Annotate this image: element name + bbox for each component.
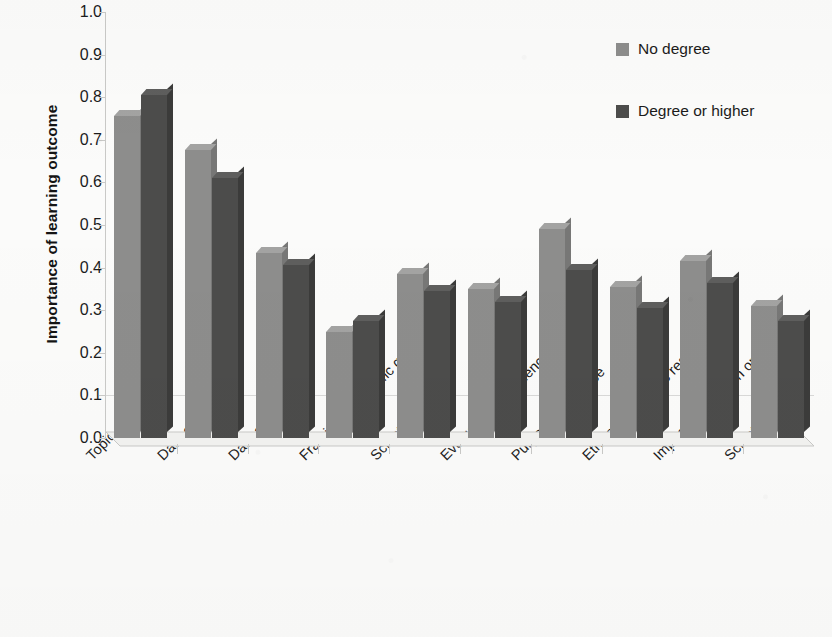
y-axis-tick-mark bbox=[99, 55, 106, 56]
y-axis-tick-mark bbox=[99, 310, 106, 311]
bar-group bbox=[539, 12, 592, 438]
y-axis-tick-mark bbox=[99, 97, 106, 98]
bar bbox=[424, 291, 450, 438]
bar-side-face bbox=[733, 271, 739, 432]
bar bbox=[680, 261, 706, 438]
bar bbox=[283, 265, 309, 438]
bar bbox=[610, 287, 636, 438]
bar bbox=[468, 289, 494, 438]
bar-front-face bbox=[353, 321, 379, 438]
bar-top-face bbox=[707, 277, 738, 283]
bar-side-face bbox=[309, 254, 315, 432]
bar-front-face bbox=[680, 261, 706, 438]
x-axis-separator bbox=[389, 444, 390, 454]
bar bbox=[141, 95, 167, 438]
bar-group bbox=[114, 12, 167, 438]
bar-front-face bbox=[468, 289, 494, 438]
bar-group bbox=[256, 12, 309, 438]
bar-front-face bbox=[141, 95, 167, 438]
bar-front-face bbox=[566, 270, 592, 438]
bar-side-face bbox=[521, 290, 527, 432]
bar-front-face bbox=[114, 116, 140, 438]
bar-front-face bbox=[212, 178, 238, 438]
y-axis-tick-mark bbox=[99, 12, 106, 13]
bar-front-face bbox=[751, 306, 777, 438]
bar-top-face bbox=[468, 283, 499, 289]
y-axis-tick-mark bbox=[99, 395, 106, 396]
bar-front-face bbox=[707, 283, 733, 438]
x-axis-separator bbox=[248, 444, 249, 454]
y-axis-tick-labels: 1.00.90.80.70.60.50.40.30.20.10.0 bbox=[56, 0, 102, 460]
bar-side-face bbox=[450, 280, 456, 432]
bar-top-face bbox=[212, 172, 243, 178]
bar-front-face bbox=[397, 274, 423, 438]
bar-front-face bbox=[610, 287, 636, 438]
bar bbox=[707, 283, 733, 438]
bar bbox=[326, 332, 352, 439]
bar-top-face bbox=[778, 315, 809, 321]
legend-item-no-degree: No degree bbox=[616, 40, 754, 58]
bar bbox=[539, 229, 565, 438]
x-axis-separator bbox=[177, 444, 178, 454]
bar-front-face bbox=[778, 321, 804, 438]
x-axis-separator bbox=[743, 444, 744, 454]
y-axis-tick-mark bbox=[99, 353, 106, 354]
bar-front-face bbox=[283, 265, 309, 438]
bar-side-face bbox=[804, 309, 810, 432]
bar-front-face bbox=[326, 332, 352, 439]
bar-side-face bbox=[592, 258, 598, 432]
bar-group bbox=[185, 12, 238, 438]
bar-front-face bbox=[495, 302, 521, 438]
y-axis-tick-mark bbox=[99, 225, 106, 226]
bar-side-face bbox=[663, 297, 669, 432]
legend-item-degree-or-higher: Degree or higher bbox=[616, 102, 754, 120]
bar bbox=[397, 274, 423, 438]
bar bbox=[778, 321, 804, 438]
legend-label: Degree or higher bbox=[638, 102, 754, 120]
y-axis-tick-mark bbox=[99, 140, 106, 141]
bar bbox=[637, 308, 663, 438]
legend-swatch-icon bbox=[616, 105, 629, 118]
bar bbox=[256, 253, 282, 438]
bar bbox=[185, 150, 211, 438]
bar bbox=[751, 306, 777, 438]
x-axis-category-labels: Topic of projectData collectionData anal… bbox=[0, 446, 832, 637]
x-axis-separator bbox=[318, 444, 319, 454]
bar bbox=[212, 178, 238, 438]
y-axis-tick-mark bbox=[99, 438, 106, 439]
bar-top-face bbox=[637, 302, 668, 308]
bar-front-face bbox=[539, 229, 565, 438]
bar-top-face bbox=[495, 296, 526, 302]
bar-group bbox=[751, 12, 804, 438]
bar-front-face bbox=[256, 253, 282, 438]
bar-chart: Importance of learning outcome 1.00.90.8… bbox=[0, 0, 832, 637]
bar-side-face bbox=[379, 309, 385, 432]
bar bbox=[114, 116, 140, 438]
bar-top-face bbox=[141, 89, 172, 95]
bar-front-face bbox=[185, 150, 211, 438]
x-axis-separator bbox=[602, 444, 603, 454]
bar-front-face bbox=[424, 291, 450, 438]
bar-top-face bbox=[256, 247, 287, 253]
bar bbox=[566, 270, 592, 438]
legend-label: No degree bbox=[638, 40, 710, 58]
bar-side-face bbox=[167, 84, 173, 432]
x-axis-separator bbox=[531, 444, 532, 454]
bar-side-face bbox=[238, 167, 244, 432]
bar-top-face bbox=[283, 259, 314, 265]
y-axis-tick-mark bbox=[99, 182, 106, 183]
bar bbox=[353, 321, 379, 438]
bar-top-face bbox=[610, 281, 641, 287]
bar-group bbox=[468, 12, 521, 438]
y-axis-tick-mark bbox=[99, 268, 106, 269]
bar bbox=[495, 302, 521, 438]
bar-group bbox=[326, 12, 379, 438]
bar-top-face bbox=[566, 264, 597, 270]
chart-legend: No degree Degree or higher bbox=[616, 40, 754, 164]
bar-front-face bbox=[637, 308, 663, 438]
x-axis-separator bbox=[672, 444, 673, 454]
bar-top-face bbox=[539, 223, 570, 229]
legend-swatch-icon bbox=[616, 43, 629, 56]
x-axis-separator bbox=[460, 444, 461, 454]
bar-group bbox=[397, 12, 450, 438]
